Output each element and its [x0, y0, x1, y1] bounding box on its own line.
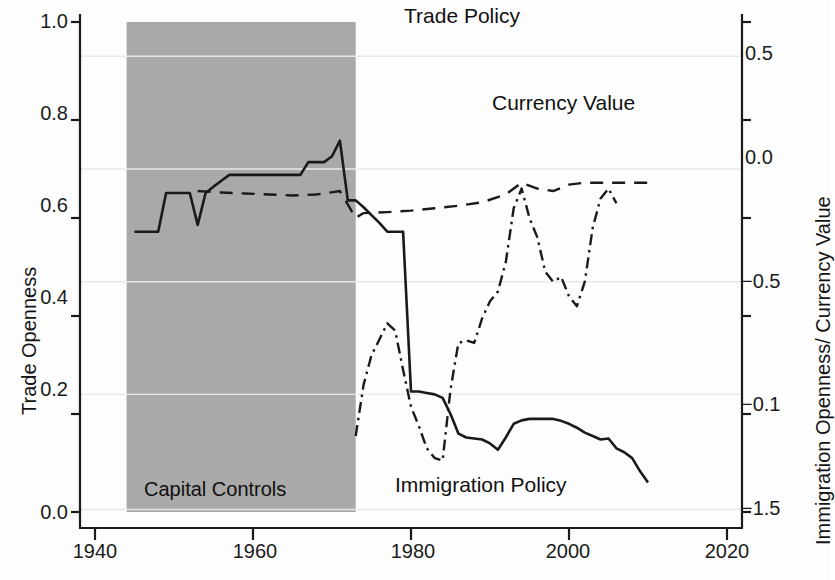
- shaded-region-capital-controls: [127, 22, 356, 512]
- series-label-trade-policy: Trade Policy: [404, 4, 520, 28]
- ytick-left-5: 0.0: [16, 501, 68, 524]
- xtick-4: 2020: [677, 540, 777, 563]
- ytick-right-4: −1.5: [741, 497, 815, 520]
- y-axis-title-right: Immigration Openness/ Currency Value: [812, 196, 835, 545]
- ytick-left-2: 0.6: [16, 194, 68, 217]
- xtick-0: 1940: [45, 540, 145, 563]
- xtick-2: 1980: [363, 540, 463, 563]
- ytick-right-2: −0.5: [741, 270, 815, 293]
- ytick-right-3: −0.1: [741, 393, 815, 416]
- ytick-left-0: 1.0: [16, 10, 68, 33]
- ytick-right-1: 0.0: [745, 146, 815, 169]
- series-label-immigration-policy: Immigration Policy: [395, 473, 567, 497]
- xtick-3: 2000: [518, 540, 618, 563]
- ytick-left-1: 0.8: [16, 102, 68, 125]
- xtick-1: 1960: [205, 540, 305, 563]
- ytick-right-0: 0.5: [745, 42, 815, 65]
- band-label-capital-controls: Capital Controls: [144, 478, 286, 501]
- series-path-currency-value: [356, 189, 617, 461]
- y-axis-title-left: Trade Openness: [18, 267, 41, 415]
- series-label-currency-value: Currency Value: [492, 91, 635, 115]
